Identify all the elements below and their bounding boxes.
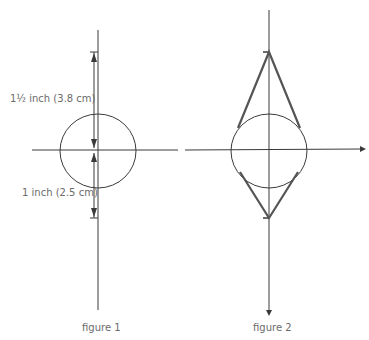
- lower-dimension-label: 1 inch (2.5 cm): [22, 187, 98, 198]
- horizontal-axis: [185, 149, 362, 150]
- arrow-down-mid-icon: [91, 139, 97, 148]
- arrow-up-top-icon: [91, 53, 97, 62]
- arrow-down-icon: [266, 310, 272, 316]
- diagram-canvas: 1½ inch (3.8 cm) 1 inch (2.5 cm) figure …: [0, 0, 369, 340]
- figure-2-caption: figure 2: [253, 322, 292, 333]
- arrow-down-bottom-icon: [91, 208, 97, 217]
- figure-2: figure 2: [185, 10, 366, 333]
- arrow-right-icon: [360, 146, 366, 152]
- upper-dimension-label: 1½ inch (3.8 cm): [10, 93, 96, 104]
- figure-1-caption: figure 1: [82, 322, 121, 333]
- arrow-up-mid-icon: [91, 153, 97, 162]
- figure-1: 1½ inch (3.8 cm) 1 inch (2.5 cm) figure …: [10, 30, 178, 333]
